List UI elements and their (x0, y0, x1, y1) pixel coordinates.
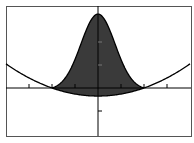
chart-plot (0, 0, 194, 143)
